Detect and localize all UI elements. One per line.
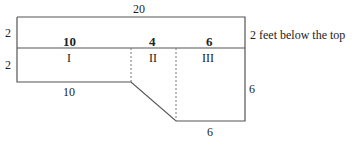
left-bottom-length-label: 10	[63, 86, 75, 98]
section-III-width: 6	[206, 35, 213, 48]
section-label-II: II	[149, 52, 157, 64]
section-I-width: 10	[63, 35, 76, 48]
section-II-width: 4	[149, 35, 156, 48]
top-width-label: 20	[133, 3, 145, 15]
section-label-III: III	[202, 52, 214, 64]
water-level-annotation: 2 feet below the top	[250, 29, 345, 41]
section-label-I: I	[67, 52, 71, 64]
pool-diagram	[0, 0, 364, 145]
upper-depth-label: 2	[5, 27, 11, 39]
lower-depth-label: 2	[5, 59, 11, 71]
right-bottom-length-label: 6	[207, 126, 213, 138]
right-depth-label: 6	[249, 83, 255, 95]
